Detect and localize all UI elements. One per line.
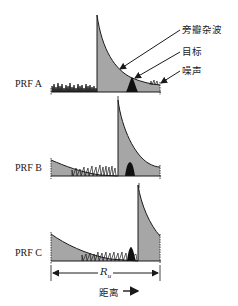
target-label: 目标 bbox=[182, 44, 202, 58]
sidelobe-clutter-label: 旁瓣杂波 bbox=[182, 22, 222, 36]
noise-pointer bbox=[161, 71, 180, 83]
sidelobe-clutter-pointer bbox=[120, 30, 180, 69]
ru-label-sub: u bbox=[108, 272, 112, 279]
range-axis-label: 距离 bbox=[99, 285, 119, 299]
target-pointer bbox=[135, 52, 180, 78]
prf-c-label: PRF C bbox=[15, 247, 42, 258]
prf-b-trace bbox=[51, 100, 161, 188]
ru-label-main: R bbox=[100, 266, 108, 277]
prf-a-label: PRF A bbox=[15, 78, 42, 89]
noise-label: 噪声 bbox=[182, 63, 202, 77]
prf-b-label: PRF B bbox=[15, 162, 42, 173]
ru-label: Ru bbox=[100, 266, 111, 279]
annotation-arrows bbox=[120, 30, 180, 83]
prf-a-trace bbox=[51, 15, 161, 100]
prf-diagram bbox=[0, 0, 238, 306]
prf-c-trace bbox=[51, 185, 161, 264]
target-c bbox=[127, 247, 136, 261]
